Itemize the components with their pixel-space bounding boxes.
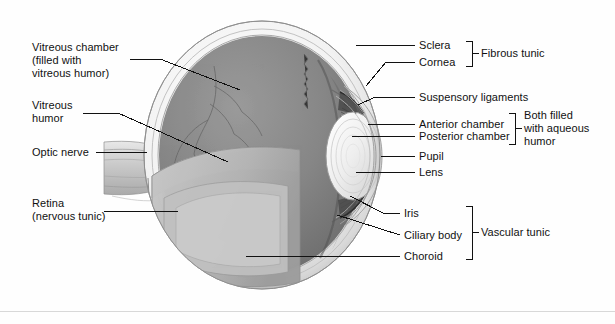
bracket-stem-vascular-tunic [472, 232, 479, 233]
figure-canvas: Vitreous chamber (filled with vitreous h… [0, 0, 615, 324]
label-sclera: Sclera [419, 39, 450, 52]
label-ciliary-body: Ciliary body [404, 229, 462, 242]
label-fibrous-tunic: Fibrous tunic [481, 47, 545, 60]
label-suspensory-ligaments: Suspensory ligaments [419, 91, 528, 104]
label-cornea: Cornea [419, 56, 455, 69]
bracket-stem-fibrous-tunic [472, 53, 479, 54]
lens-structure [326, 112, 380, 200]
suspensory-ligament-fibers [340, 104, 356, 216]
bracket-aqueous-humor [509, 113, 516, 145]
cornea-shape [344, 86, 382, 226]
anterior-segment [326, 86, 382, 226]
leader-lines [83, 45, 415, 256]
label-retina: Retina (nervous tunic) [32, 197, 106, 223]
bracket-stem-aqueous-humor [515, 128, 522, 129]
label-aqueous-humor: Both filled with aqueous humor [524, 109, 589, 148]
retinal-vessels [173, 66, 262, 187]
label-choroid: Choroid [404, 250, 443, 263]
label-lens: Lens [419, 166, 443, 179]
ora-serrata [304, 54, 308, 109]
label-posterior-chamber: Posterior chamber [419, 130, 510, 143]
label-vascular-tunic: Vascular tunic [481, 226, 550, 239]
bottom-divider [0, 311, 615, 312]
bracket-vascular-tunic [466, 206, 473, 260]
label-iris: Iris [404, 207, 419, 220]
label-vitreous-chamber: Vitreous chamber (filled with vitreous h… [32, 41, 119, 80]
optic-nerve-structure [104, 141, 168, 201]
bracket-fibrous-tunic [466, 41, 473, 67]
label-optic-nerve: Optic nerve [32, 146, 89, 159]
label-pupil: Pupil [419, 150, 444, 163]
label-vitreous-humor: Vitreous humor [32, 99, 73, 125]
